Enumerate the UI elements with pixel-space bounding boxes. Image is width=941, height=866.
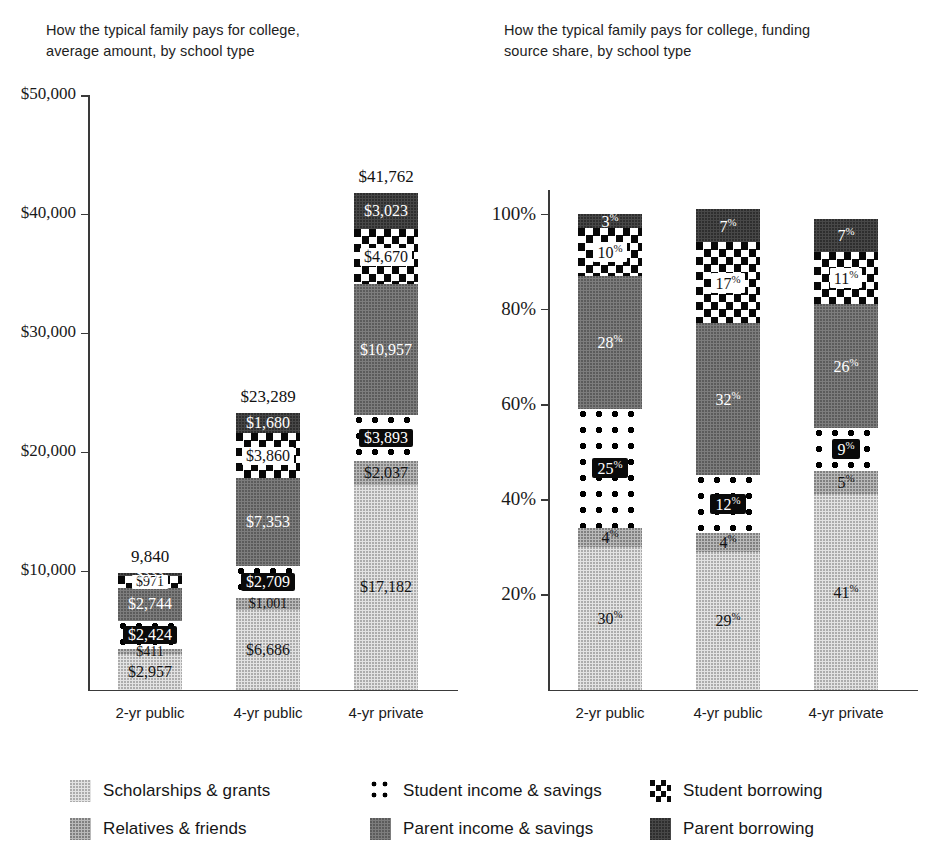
legend-item-student-income-savings[interactable]: Student income & savings <box>370 780 650 802</box>
segment-student-borrowing[interactable]: 11% <box>814 252 878 304</box>
medium-gray-swatch <box>70 818 91 840</box>
charcoal-swatch <box>650 818 671 840</box>
segment-student-borrowing[interactable]: $4,670 <box>354 229 418 285</box>
segment-relatives-friends[interactable]: 4% <box>578 528 642 547</box>
y-axis-tick <box>81 452 88 454</box>
segment-student-income-savings[interactable]: $2,709 <box>236 566 300 598</box>
legend-item-scholarships-grants[interactable]: Scholarships & grants <box>70 780 370 802</box>
segment-value-label: $411 <box>136 646 163 658</box>
segment-value-label: $2,424 <box>123 626 177 644</box>
segment-scholarships-grants[interactable]: 41% <box>814 494 878 689</box>
segment-value-label: $1,680 <box>246 415 290 431</box>
segment-student-income-savings[interactable]: 12% <box>696 475 760 532</box>
y-axis-tick-label: $40,000 <box>21 203 76 223</box>
segment-scholarships-grants[interactable]: 30% <box>578 547 642 690</box>
legend-item-parent-income-savings[interactable]: Parent income & savings <box>370 818 650 840</box>
legend-label: Parent income & savings <box>403 819 593 839</box>
bar-4-yr-private[interactable]: 41%5%9%26%11%7% <box>814 219 878 690</box>
y-axis-tick-label: 40% <box>501 488 536 510</box>
x-axis-label-2-yr-public: 2-yr public <box>575 704 644 721</box>
segment-value-label: 3% <box>601 212 618 230</box>
segment-parent-income-savings[interactable]: 32% <box>696 323 760 475</box>
right-y-axis <box>548 190 550 691</box>
left-chart-title-line2: average amount, by school type <box>46 41 406 62</box>
segment-scholarships-grants[interactable]: $6,686 <box>236 610 300 689</box>
segment-value-label: 4% <box>719 533 736 551</box>
right-chart-title-line1: How the typical family pays for college,… <box>504 20 904 41</box>
segment-relatives-friends[interactable]: 4% <box>696 533 760 552</box>
segment-value-label: 41% <box>833 583 858 601</box>
segment-student-borrowing[interactable]: 17% <box>696 242 760 323</box>
segment-scholarships-grants[interactable]: 29% <box>696 552 760 690</box>
right-chart-plot-area: 100%80%60%40%20% 30%4%25%28%10%3%29%4%12… <box>548 190 918 691</box>
segment-value-label: $3,893 <box>359 429 413 447</box>
segment-value-label: 7% <box>719 217 736 235</box>
x-axis-label-4-yr-public: 4-yr public <box>693 704 762 721</box>
segment-student-income-savings[interactable]: $3,893 <box>354 415 418 461</box>
y-axis-tick <box>541 214 548 216</box>
bar-2-yr-public[interactable]: $2,957$411$2,424$2,744$971$3339,840 <box>118 573 182 690</box>
segment-parent-income-savings[interactable]: 26% <box>814 304 878 428</box>
segment-parent-income-savings[interactable]: $10,957 <box>354 284 418 414</box>
segment-value-label: $4,670 <box>360 248 412 266</box>
segment-value-label: $2,709 <box>241 573 295 591</box>
x-axis-label-4-yr-public: 4-yr public <box>233 704 302 721</box>
segment-relatives-friends[interactable]: $2,037 <box>354 461 418 485</box>
y-axis-tick <box>81 95 88 97</box>
segment-relatives-friends[interactable]: $1,001 <box>236 598 300 610</box>
left-chart-title: How the typical family pays for college,… <box>46 20 406 62</box>
segment-parent-income-savings[interactable]: $2,744 <box>118 588 182 621</box>
segment-student-income-savings[interactable]: 9% <box>814 428 878 471</box>
y-axis-tick <box>541 309 548 311</box>
segment-scholarships-grants[interactable]: $2,957 <box>118 654 182 689</box>
segment-parent-borrowing[interactable]: $1,680 <box>236 413 300 433</box>
segment-value-label: 4% <box>601 528 618 546</box>
y-axis-tick <box>541 499 548 501</box>
legend-label: Student income & savings <box>403 781 602 801</box>
legend-item-parent-borrowing[interactable]: Parent borrowing <box>650 818 910 840</box>
dark-gray-swatch <box>370 818 391 840</box>
segment-parent-borrowing[interactable]: 3% <box>578 214 642 228</box>
black-checkerboard-swatch <box>650 780 671 802</box>
segment-value-label: 17% <box>711 273 744 293</box>
bar-4-yr-public[interactable]: $6,686$1,001$2,709$7,353$3,860$1,680$23,… <box>236 413 300 690</box>
segment-relatives-friends[interactable]: 5% <box>814 471 878 495</box>
segment-scholarships-grants[interactable]: $17,182 <box>354 485 418 689</box>
left-y-axis <box>88 95 90 691</box>
segment-parent-income-savings[interactable]: 28% <box>578 276 642 409</box>
segment-relatives-friends[interactable]: $411 <box>118 649 182 654</box>
segment-value-label: $2,957 <box>128 664 172 680</box>
segment-parent-income-savings[interactable]: $7,353 <box>236 478 300 565</box>
segment-value-label: $3,860 <box>242 447 294 465</box>
y-axis-tick <box>541 594 548 596</box>
y-axis-tick-label: 80% <box>501 298 536 320</box>
legend-item-student-borrowing[interactable]: Student borrowing <box>650 780 910 802</box>
segment-parent-borrowing[interactable]: $3,023 <box>354 193 418 229</box>
segment-student-income-savings[interactable]: 25% <box>578 409 642 528</box>
legend-label: Parent borrowing <box>683 819 814 839</box>
segment-parent-borrowing[interactable]: 7% <box>696 209 760 242</box>
segment-parent-borrowing[interactable]: $333 <box>118 573 182 577</box>
segment-value-label: 28% <box>597 333 622 351</box>
segment-parent-borrowing[interactable]: 7% <box>814 219 878 252</box>
bar-4-yr-private[interactable]: $17,182$2,037$3,893$10,957$4,670$3,023$4… <box>354 193 418 690</box>
legend-item-relatives-friends[interactable]: Relatives & friends <box>70 818 370 840</box>
segment-value-label: $333 <box>136 569 164 581</box>
right-x-axis <box>548 690 918 692</box>
segment-value-label: $3,023 <box>364 203 408 219</box>
segment-value-label: 7% <box>837 226 854 244</box>
segment-student-borrowing[interactable]: $3,860 <box>236 433 300 479</box>
bar-2-yr-public[interactable]: 30%4%25%28%10%3% <box>578 214 642 690</box>
y-axis-tick <box>81 214 88 216</box>
right-chart-title: How the typical family pays for college,… <box>504 20 904 62</box>
white-polka-dot-swatch <box>370 780 391 802</box>
segment-student-borrowing[interactable]: 10% <box>578 228 642 276</box>
bar-4-yr-public[interactable]: 29%4%12%32%17%7% <box>696 209 760 689</box>
legend-label: Scholarships & grants <box>103 781 270 801</box>
segment-value-label: 30% <box>597 609 622 627</box>
y-axis-tick <box>81 333 88 335</box>
y-axis-tick-label: 20% <box>501 583 536 605</box>
segment-value-label: 26% <box>833 357 858 375</box>
right-chart-title-line2: source share, by school type <box>504 41 904 62</box>
legend-label: Student borrowing <box>683 781 823 801</box>
